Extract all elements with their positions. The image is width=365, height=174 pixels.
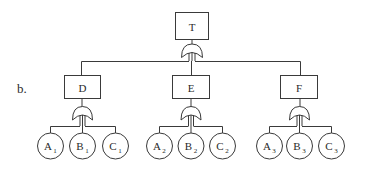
svg-text:C: C	[109, 140, 116, 152]
basic-event-b1: B 1	[70, 133, 96, 159]
basic-event-c2: C 2	[210, 133, 236, 159]
svg-text:2: 2	[162, 147, 166, 155]
svg-text:B: B	[76, 140, 83, 152]
svg-text:1: 1	[118, 147, 122, 155]
svg-text:A: A	[153, 140, 161, 152]
svg-text:2: 2	[225, 147, 229, 155]
svg-text:C: C	[216, 140, 223, 152]
svg-text:B: B	[293, 140, 300, 152]
top-event-t: T	[176, 13, 209, 40]
intermediate-event-f: F	[281, 76, 318, 99]
or-gate-icon	[73, 107, 93, 134]
basic-event-b2: B 2	[178, 133, 204, 159]
basic-event-c3: C 3	[319, 133, 345, 159]
intermediate-event-e: E	[173, 76, 210, 99]
fault-tree-diagram: b. T D A 1 B 1 C 1	[0, 0, 365, 174]
or-gate-icon	[182, 44, 203, 61]
or-gate-icon	[290, 107, 310, 134]
or-gate-icon	[181, 107, 201, 134]
basic-event-a3: A 3	[257, 133, 283, 159]
svg-text:C: C	[325, 140, 332, 152]
basic-event-a1: A 1	[38, 133, 64, 159]
svg-text:2: 2	[194, 147, 198, 155]
svg-text:3: 3	[302, 147, 306, 155]
basic-event-b3: B 3	[287, 133, 313, 159]
intermediate-event-d: D	[65, 76, 101, 99]
svg-text:1: 1	[85, 147, 89, 155]
basic-event-c1: C 1	[103, 133, 129, 159]
event-e-label: E	[188, 82, 195, 94]
event-f-label: F	[296, 82, 302, 94]
top-event-label: T	[189, 21, 196, 33]
svg-text:A: A	[263, 140, 271, 152]
svg-text:B: B	[185, 140, 192, 152]
svg-text:A: A	[44, 140, 52, 152]
event-d-label: D	[79, 82, 87, 94]
svg-text:3: 3	[334, 147, 338, 155]
panel-label: b.	[17, 81, 27, 96]
svg-text:3: 3	[272, 147, 276, 155]
svg-text:1: 1	[53, 147, 57, 155]
basic-event-a2: A 2	[147, 133, 173, 159]
